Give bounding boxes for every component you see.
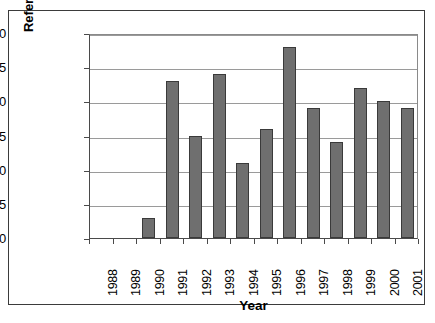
x-axis-tick-mark (136, 239, 137, 244)
y-axis-tick-label: 30 (0, 29, 6, 39)
x-axis-tick-mark (254, 239, 255, 244)
figure: References 051015202530 1988198919901991… (0, 0, 435, 323)
y-axis-tick-mark (84, 171, 89, 172)
x-axis-tick: 1996 (277, 244, 303, 296)
gridline (90, 69, 417, 70)
y-axis-tick-label: 20 (0, 97, 6, 107)
gridline (90, 172, 417, 173)
y-axis-tick-mark (84, 205, 89, 206)
y-axis-tick-label: 0 (0, 234, 6, 244)
bar (330, 142, 343, 238)
bar (401, 108, 414, 238)
x-axis-tick: 2001 (395, 244, 421, 296)
x-axis-tick-mark (89, 239, 90, 244)
x-axis-tick-mark (207, 239, 208, 244)
plot-area (89, 34, 418, 239)
y-axis-tick-label: 5 (0, 200, 6, 210)
bar (166, 81, 179, 238)
x-axis-tick-mark (371, 239, 372, 244)
x-axis-tick: 1995 (254, 244, 280, 296)
x-axis-tick-mark (160, 239, 161, 244)
y-axis-tick-mark (84, 102, 89, 103)
x-axis-tick-mark (230, 239, 231, 244)
x-axis-tick: 1991 (160, 244, 186, 296)
bar (283, 47, 296, 238)
x-axis-tick-label: 2001 (411, 244, 425, 296)
gridline (90, 206, 417, 207)
x-axis-tick: 1989 (113, 244, 139, 296)
x-axis-tick: 1993 (207, 244, 233, 296)
gridline (90, 138, 417, 139)
x-axis-tick: 1998 (324, 244, 350, 296)
x-axis-tick: 1999 (348, 244, 374, 296)
bar (307, 108, 320, 238)
x-axis-tick-mark (183, 239, 184, 244)
x-axis-tick-mark (277, 239, 278, 244)
x-axis-tick-mark (113, 239, 114, 244)
x-axis-tick: 1994 (230, 244, 256, 296)
y-axis-tick-mark (84, 137, 89, 138)
x-axis-tick-mark (418, 239, 419, 244)
bar (142, 218, 155, 239)
y-axis-tick-label: 15 (0, 132, 6, 142)
figure-caption (0, 314, 435, 323)
x-axis-title: Year (89, 298, 418, 313)
bar (260, 129, 273, 238)
x-axis-tick-mark (324, 239, 325, 244)
x-axis-tick: 1992 (183, 244, 209, 296)
x-axis-tick: 1988 (89, 244, 115, 296)
y-axis-title: References (21, 0, 36, 67)
chart-frame: References 051015202530 1988198919901991… (8, 10, 425, 305)
bar (377, 101, 390, 238)
x-axis-tick-mark (395, 239, 396, 244)
x-axis-tick: 1990 (136, 244, 162, 296)
bar (189, 136, 202, 239)
gridline (90, 35, 417, 36)
x-axis-tick-mark (348, 239, 349, 244)
y-axis-tick-mark (84, 34, 89, 35)
bar (236, 163, 249, 238)
y-axis-tick-label: 25 (0, 63, 6, 73)
bar (213, 74, 226, 238)
y-axis-tick-mark (84, 68, 89, 69)
x-axis-tick-mark (301, 239, 302, 244)
bar (354, 88, 367, 238)
x-axis-tick: 2000 (371, 244, 397, 296)
x-axis-tick: 1997 (301, 244, 327, 296)
gridline (90, 103, 417, 104)
y-axis-tick-label: 10 (0, 166, 6, 176)
